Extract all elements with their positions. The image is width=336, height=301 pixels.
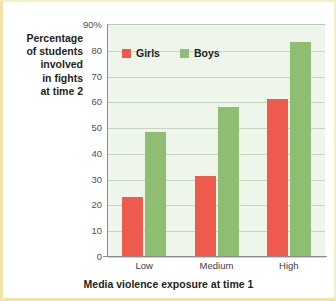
y-axis-tick-label: 60 — [10, 96, 108, 107]
bar-girls-low — [122, 197, 143, 256]
bar-boys-low — [145, 132, 166, 256]
legend-label-boys: Boys — [194, 47, 220, 59]
legend: Girls Boys — [122, 47, 220, 59]
y-axis-tick-label: 40 — [10, 147, 108, 158]
y-axis-tick-label: 20 — [10, 199, 108, 210]
y-axis-tick-label: 0 — [10, 251, 108, 262]
plot-area: Girls Boys — [108, 24, 325, 256]
x-axis-tick-label: Medium — [200, 260, 234, 271]
y-axis-tick-label: 50 — [10, 122, 108, 133]
x-axis-tick-label: High — [279, 260, 299, 271]
gridline — [108, 257, 325, 258]
y-axis-tick-label: 70 — [10, 70, 108, 81]
legend-label-girls: Girls — [136, 47, 160, 59]
bar-girls-medium — [195, 176, 216, 256]
bar-girls-high — [267, 99, 288, 256]
y-axis-tick-label: 30 — [10, 173, 108, 184]
y-axis-tick-label: 90% — [10, 19, 108, 30]
legend-item-boys: Boys — [180, 47, 220, 59]
x-axis-tick-label: Low — [135, 260, 152, 271]
legend-swatch-girls-icon — [122, 49, 131, 58]
y-axis-tick-label: 80 — [10, 44, 108, 55]
legend-item-girls: Girls — [122, 47, 160, 59]
y-axis-tick-label: 10 — [10, 225, 108, 236]
bar-boys-high — [290, 42, 311, 256]
chart-figure: Percentage of students involved in fight… — [0, 0, 336, 301]
y-axis-line — [107, 24, 108, 257]
bar-boys-medium — [218, 107, 239, 257]
x-axis-line — [103, 256, 327, 257]
y-axis-ticks: 90%80706050403020100 — [3, 2, 108, 301]
x-axis-title: Media violence exposure at time 1 — [3, 278, 334, 290]
legend-swatch-boys-icon — [180, 49, 189, 58]
